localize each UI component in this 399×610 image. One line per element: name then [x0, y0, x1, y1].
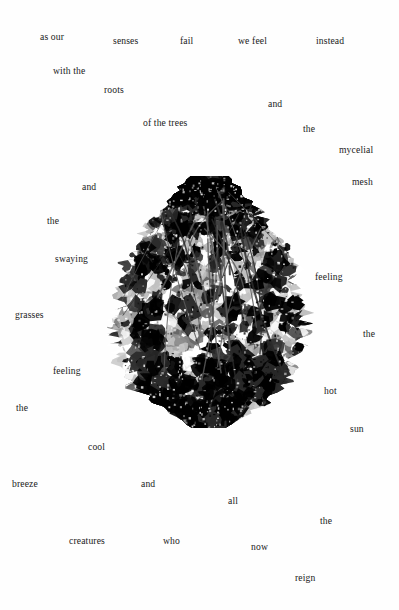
poem-word: sun — [350, 424, 364, 434]
poem-word: and — [268, 99, 282, 109]
poem-word: all — [228, 496, 238, 506]
poem-word: the — [16, 403, 28, 413]
poem-word: senses — [113, 36, 138, 46]
poem-word: mycelial — [339, 145, 373, 155]
poem-word: the — [47, 216, 59, 226]
poem-word: mesh — [352, 177, 373, 187]
poem-word: grasses — [15, 310, 44, 320]
poem-page: as oursensesfailwe feelinsteadwith thero… — [0, 0, 399, 610]
poem-word: creatures — [69, 536, 105, 546]
poem-word: and — [82, 182, 96, 192]
poem-word: hot — [324, 386, 337, 396]
poem-word: and — [141, 479, 155, 489]
poem-word: the — [320, 516, 332, 526]
poem-word: feeling — [315, 272, 343, 282]
poem-word: breeze — [12, 479, 38, 489]
poem-word: as our — [40, 32, 64, 42]
poem-word: cool — [88, 442, 105, 452]
poem-word: reign — [295, 573, 315, 583]
poem-word: the — [303, 124, 315, 134]
poem-word: fail — [180, 36, 193, 46]
poem-word: swaying — [55, 254, 88, 264]
poem-word: now — [251, 542, 268, 552]
poem-word: who — [163, 536, 180, 546]
poem-word: we feel — [238, 36, 267, 46]
poem-word: with the — [53, 66, 85, 76]
foliage-collage-image — [104, 176, 314, 428]
poem-word: feeling — [53, 366, 81, 376]
poem-word: instead — [316, 36, 344, 46]
poem-word: the — [363, 329, 375, 339]
poem-word: roots — [104, 85, 124, 95]
poem-word: of the trees — [143, 118, 187, 128]
